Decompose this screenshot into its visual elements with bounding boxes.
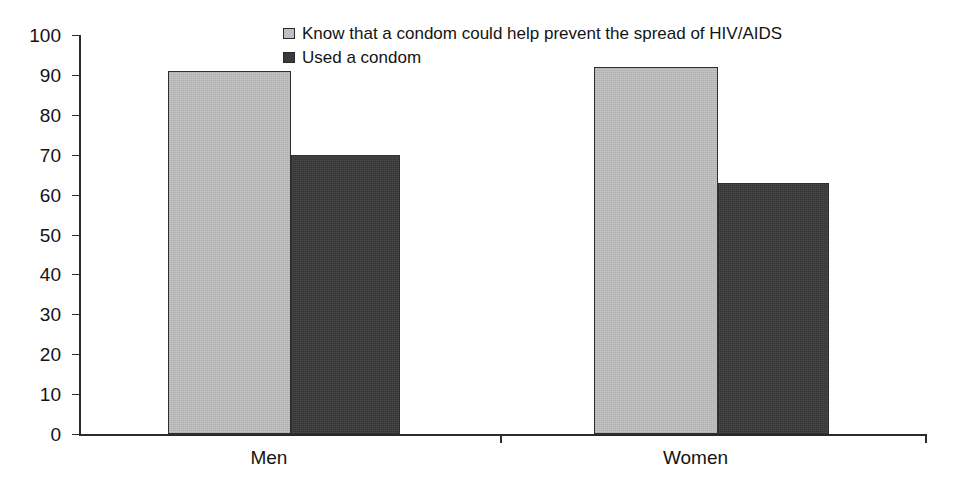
y-tick-label-50: 50 <box>40 225 61 244</box>
y-tick-30: 30 <box>72 314 79 315</box>
y-tick-20: 20 <box>72 354 79 355</box>
x-tick-end <box>925 435 927 443</box>
bar-chart: Know that a condom could help prevent th… <box>0 0 961 481</box>
y-tick-0: 0 <box>72 434 79 435</box>
y-tick-label-30: 30 <box>40 305 61 324</box>
y-tick-label-10: 10 <box>40 385 61 404</box>
y-tick-50: 50 <box>72 235 79 236</box>
plot-area: 100 90 80 70 60 50 40 30 20 10 0 <box>79 35 927 434</box>
y-tick-80: 80 <box>72 115 79 116</box>
y-tick-100: 100 <box>72 35 79 36</box>
y-tick-40: 40 <box>72 274 79 275</box>
y-tick-label-40: 40 <box>40 265 61 284</box>
y-tick-10: 10 <box>72 394 79 395</box>
y-tick-60: 60 <box>72 195 79 196</box>
x-category-label-men: Men <box>250 447 287 468</box>
y-tick-label-80: 80 <box>40 105 61 124</box>
y-axis-line <box>79 35 81 435</box>
x-category-label-women: Women <box>663 447 728 468</box>
y-tick-label-70: 70 <box>40 145 61 164</box>
y-tick-label-100: 100 <box>29 26 61 45</box>
x-axis-line <box>79 434 927 436</box>
bar-men-used <box>291 155 400 434</box>
bar-women-know <box>594 67 718 434</box>
bar-women-used <box>718 183 829 434</box>
y-tick-90: 90 <box>72 75 79 76</box>
y-tick-label-90: 90 <box>40 65 61 84</box>
y-tick-label-20: 20 <box>40 345 61 364</box>
x-tick-separator <box>500 435 502 443</box>
bar-men-know <box>168 71 291 434</box>
y-tick-70: 70 <box>72 155 79 156</box>
y-tick-label-0: 0 <box>50 425 61 444</box>
y-tick-label-60: 60 <box>40 185 61 204</box>
